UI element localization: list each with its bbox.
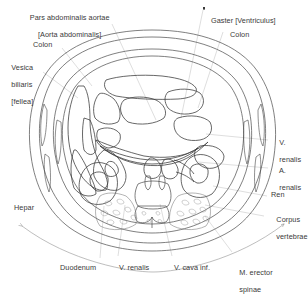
label-erector-line2: spinae: [239, 285, 261, 294]
label-vrenalis-right-line1: V.: [279, 138, 285, 147]
colon-transverse-mid: [121, 97, 166, 124]
organs: [68, 75, 224, 204]
label-aorta-line1: Pars abdominalis aortae: [30, 13, 110, 22]
pancreas-inner: [100, 146, 198, 164]
label-musculus-erector-spinae: M. erector spinae: [231, 260, 273, 298]
leader-colon-left: [62, 48, 92, 86]
leader-arenalis-right: [198, 162, 268, 168]
label-colon-left: Colon: [33, 41, 52, 50]
label-pars-abdominalis-aortae: Pars abdominalis aortae [Aorta abdominal…: [8, 5, 123, 48]
aorta-outline: [144, 158, 161, 179]
label-hepar: Hepar: [14, 204, 34, 213]
leader-duodenum: [100, 206, 104, 258]
gaster-outline: [104, 75, 196, 99]
label-arenalis-right-line1: A.: [279, 166, 286, 175]
hepar-lobe-lower: [71, 150, 96, 196]
label-corpus-line2: vertebrae: [276, 232, 307, 241]
erector-spinae-right-outline: [169, 193, 210, 230]
leader-ren: [213, 186, 267, 196]
label-vesica-line2: biliaris: [11, 80, 32, 89]
label-vena-cava-inferior: V. cava inf.: [174, 264, 210, 273]
colon-right-mid: [174, 116, 212, 141]
label-vesica-line1: Vesica: [11, 63, 33, 72]
transverse-process-right: [159, 176, 165, 190]
corpus-vertebrae-outline: [135, 181, 171, 209]
hepar-outline: [68, 86, 108, 190]
asterisk-marker: [203, 7, 205, 10]
leader-corpus: [205, 205, 264, 216]
label-gaster: Gaster [Ventriculus]: [211, 17, 276, 26]
colon-descending: [194, 145, 224, 168]
muscle-band-left-1: [41, 104, 47, 146]
label-vesica-biliaris: Vesica biliaris [fellea]: [3, 55, 33, 115]
duodenum-outline: [93, 150, 126, 190]
inner-fascia-line: [62, 56, 243, 224]
muscle-band-right-3: [244, 120, 250, 164]
leader-gaster: [181, 10, 203, 118]
label-duodenum: Duodenum: [60, 264, 96, 273]
colon-transverse-left: [94, 93, 120, 124]
label-vesica-line3: [fellea]: [11, 97, 33, 106]
label-colon-right: Colon: [230, 31, 249, 40]
subcutaneous-line: [39, 37, 265, 243]
label-corpus-line1: Corpus: [276, 215, 300, 224]
label-ren: Ren: [271, 191, 285, 200]
muscle-band-left-3: [55, 120, 61, 164]
label-corpus-vertebrae: Corpus vertebrae: [268, 207, 308, 250]
leader-vrenalis-right: [206, 134, 268, 140]
label-erector-line1: M. erector: [239, 268, 272, 277]
label-aorta-line2: [Aorta abdominalis]: [38, 30, 101, 39]
label-vena-renalis-bottom: V. renalis: [119, 264, 149, 273]
vertebra: [135, 176, 171, 228]
